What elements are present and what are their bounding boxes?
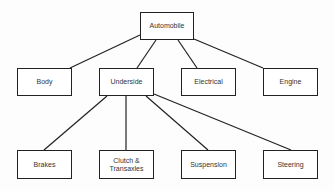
node-underside: Underside (99, 68, 154, 96)
node-label: Steering (277, 161, 303, 169)
node-label: Automobile (149, 22, 184, 30)
node-label: Body (37, 78, 53, 86)
edge-underside-steering (154, 94, 291, 150)
node-steering: Steering (263, 150, 318, 179)
edge-automobile-engine (194, 39, 263, 68)
node-label: Electrical (194, 78, 222, 86)
edge-underside-brakes (44, 96, 107, 150)
node-electrical: Electrical (181, 68, 236, 96)
node-brakes: Brakes (17, 150, 72, 179)
node-suspension: Suspension (181, 150, 236, 179)
edge-underside-suspension (146, 96, 208, 150)
node-label: Engine (280, 78, 302, 86)
edge-automobile-body (70, 35, 140, 68)
node-body: Body (17, 68, 72, 96)
edge-automobile-underside (137, 40, 156, 68)
node-engine: Engine (263, 68, 318, 96)
node-label: Brakes (34, 161, 56, 169)
node-automobile: Automobile (140, 12, 194, 40)
node-label: Clutch & Transaxles (107, 157, 147, 173)
node-clutch-transaxles: Clutch & Transaxles (99, 150, 154, 179)
automobile-tree-diagram: Automobile Body Underside Electrical Eng… (0, 0, 334, 191)
edge-automobile-electrical (178, 40, 197, 68)
node-label: Suspension (190, 161, 227, 169)
node-label: Underside (111, 78, 143, 86)
